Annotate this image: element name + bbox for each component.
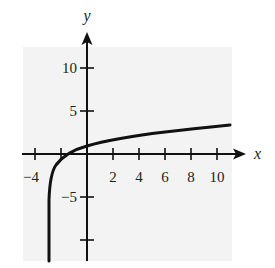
- log-function-graph: −4 2 4 6 8 10 x 10 5 −5 y: [0, 0, 275, 268]
- x-tick-label-6: 6: [161, 169, 169, 185]
- x-tick-label-10: 10: [210, 169, 225, 185]
- y-tick-label-neg5: −5: [61, 189, 77, 205]
- x-tick-label-2: 2: [109, 169, 117, 185]
- x-tick-label-8: 8: [187, 169, 195, 185]
- y-axis-label: y: [81, 7, 91, 25]
- x-tick-label-neg4: −4: [23, 169, 39, 185]
- x-axis-label: x: [253, 145, 261, 162]
- y-tick-label-10: 10: [62, 60, 77, 76]
- y-tick-label-5: 5: [70, 103, 78, 119]
- x-tick-label-4: 4: [135, 169, 143, 185]
